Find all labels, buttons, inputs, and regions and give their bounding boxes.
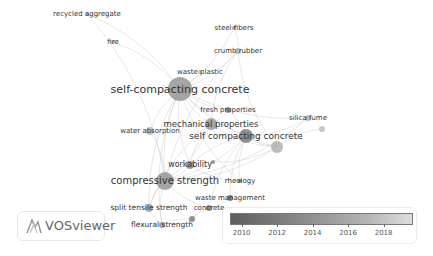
colorbar-tick-label: 2012 — [268, 229, 286, 237]
edge — [87, 14, 180, 89]
colorbar-tick-mark — [277, 224, 278, 227]
node-label-water-absorption[interactable]: water absorption — [120, 128, 180, 135]
edge — [213, 147, 277, 162]
node-label-split-tensile-strength[interactable]: split tensile strength — [110, 204, 187, 212]
node-label-self-compacting-concrete-h[interactable]: self-compacting concrete — [111, 84, 250, 95]
node-label-compressive-strength[interactable]: compressive strength — [111, 176, 219, 186]
node-label-steel-fibers[interactable]: steel fibers — [215, 25, 254, 32]
vosviewer-logo: VOSviewer — [17, 211, 105, 241]
node-scc-node2[interactable] — [271, 141, 283, 153]
node-label-waste-management[interactable]: waste management — [195, 195, 265, 202]
colorbar-tick-mark — [242, 224, 243, 227]
vosviewer-logo-text: VOSviewer — [45, 218, 115, 233]
node-label-fire[interactable]: fire — [107, 39, 118, 46]
node-label-waste-plastic[interactable]: waste plastic — [177, 69, 223, 76]
node-label-silica-fume[interactable]: silica fume — [289, 115, 327, 122]
edge — [180, 28, 234, 89]
colorbar-tick-label: 2016 — [339, 229, 357, 237]
colorbar-tick-label: 2018 — [375, 229, 393, 237]
node-label-flexural-strength[interactable]: flexural strength — [131, 221, 193, 229]
year-colorbar — [230, 213, 413, 225]
node-label-concrete[interactable]: concrete — [194, 205, 225, 212]
node-label-recycled-aggregate[interactable]: recycled aggregate — [53, 11, 121, 18]
vosviewer-logo-icon — [25, 218, 43, 234]
colorbar-tick-mark — [384, 224, 385, 227]
node-label-rheology[interactable]: rheology — [225, 178, 256, 185]
colorbar-tick-label: 2014 — [304, 229, 322, 237]
edge — [149, 89, 180, 208]
colorbar-tick-label: 2010 — [233, 229, 251, 237]
colorbar-tick-mark — [313, 224, 314, 227]
node-silica-dot2[interactable] — [319, 126, 325, 132]
overlay-color-legend: 20102012201420162018 — [222, 207, 417, 244]
colorbar-tick-mark — [348, 224, 349, 227]
node-label-self-compacting-concrete[interactable]: self compacting concrete — [189, 132, 303, 141]
node-label-fresh-properties[interactable]: fresh properties — [200, 107, 256, 114]
node-label-crumb-rubber[interactable]: crumb rubber — [214, 48, 262, 55]
node-label-workability[interactable]: workability — [168, 161, 212, 169]
